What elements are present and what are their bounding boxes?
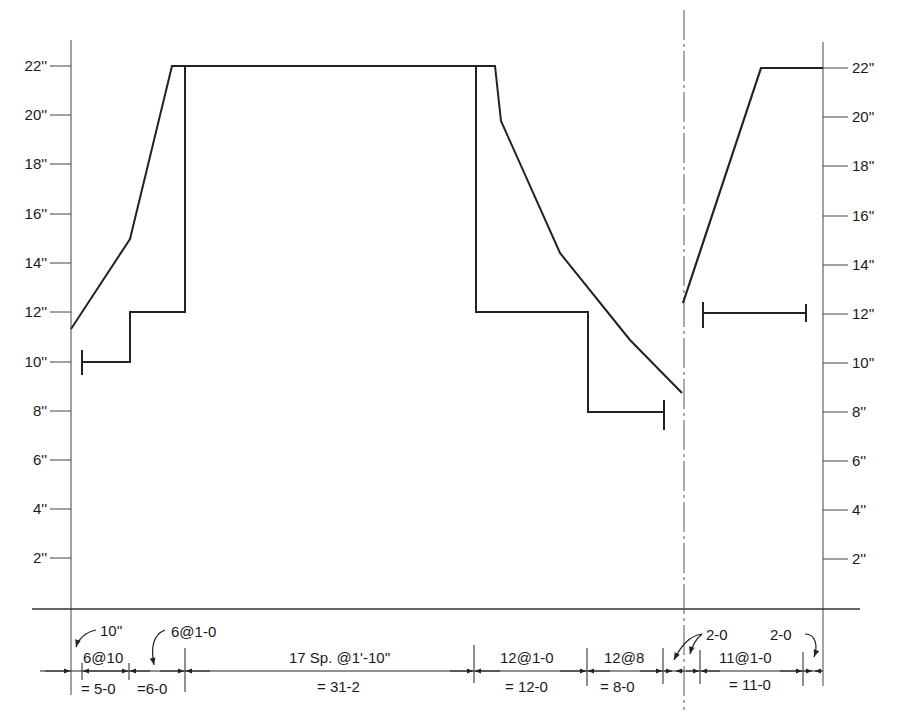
depth-diagram: 22'' 20'' 18'' 16'' 14'' 12'' 10'' 8'' 6… (0, 0, 899, 724)
span-17sp-total: = 31-2 (317, 678, 360, 695)
span-6at10-label: 6@10 (83, 649, 123, 666)
left-tick-20: 20'' (25, 106, 48, 123)
left-tick-12: 12'' (25, 303, 48, 320)
right-tick-14: 14'' (852, 256, 875, 273)
span-6at1-0-total: =6-0 (137, 680, 167, 697)
left-tick-18: 18'' (25, 155, 48, 172)
span-12at1-0-label: 12@1-0 (500, 649, 554, 666)
right-tick-10: 10'' (852, 354, 875, 371)
right-tick-12: 12'' (852, 305, 875, 322)
depth-envelope-line (71, 66, 682, 393)
left-axis: 22'' 20'' 18'' 16'' 14'' 12'' 10'' 8'' 6… (25, 40, 71, 695)
left-tick-22: 22'' (25, 57, 48, 74)
callout-10in: 10'' (100, 622, 123, 639)
span-12at8-label: 12@8 (604, 649, 644, 666)
span-11at1-0-total: = 11-0 (729, 676, 771, 693)
right-axis: 22'' 20'' 18'' 16'' 14'' 12'' 10'' 8'' 6… (823, 42, 875, 686)
right-tick-16: 16'' (852, 207, 875, 224)
right-tick-4: 4'' (852, 501, 866, 518)
callout-2-0-left: 2-0 (706, 626, 728, 643)
callout-2-0-right: 2-0 (770, 626, 792, 643)
callout-6at1-0: 6@1-0 (171, 623, 216, 640)
span-11at1-0-label: 11@1-0 (719, 649, 771, 666)
right-tick-18: 18'' (852, 157, 875, 174)
left-tick-10: 10'' (25, 353, 48, 370)
span-12at1-0-total: = 12-0 (505, 678, 548, 695)
far-right-bar (703, 302, 806, 328)
span-12at8-total: = 8-0 (600, 678, 635, 695)
far-right-slope-line (683, 68, 823, 303)
step-line-left (82, 66, 185, 362)
left-tick-6: 6'' (33, 451, 47, 468)
right-tick-2: 2'' (852, 550, 866, 567)
right-tick-22: 22'' (852, 59, 875, 76)
step-line-right (476, 66, 664, 412)
left-tick-16: 16'' (25, 205, 48, 222)
right-tick-6: 6'' (852, 452, 866, 469)
right-tick-20: 20'' (852, 108, 875, 125)
left-tick-2: 2'' (33, 549, 47, 566)
span-17sp-label: 17 Sp. @1'-10'' (289, 649, 391, 666)
left-tick-8: 8'' (33, 402, 47, 419)
span-6at10-total: = 5-0 (81, 680, 116, 697)
right-tick-8: 8'' (852, 403, 866, 420)
left-tick-14: 14'' (25, 254, 48, 271)
left-tick-4: 4'' (33, 500, 47, 517)
